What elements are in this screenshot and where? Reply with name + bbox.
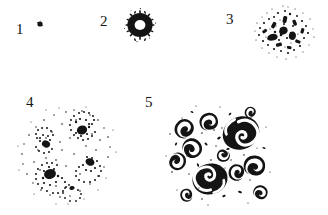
panel-4: 4	[14, 92, 132, 210]
panel-5: 5	[140, 92, 278, 212]
panel-3: 3	[218, 2, 324, 66]
panel-label-1: 1	[16, 22, 24, 37]
panel-2: 2	[92, 4, 170, 52]
panel-label-3: 3	[226, 12, 234, 27]
panel-art-spiral-field	[16, 104, 128, 208]
panel-art-comma-spiral-field	[162, 100, 276, 210]
panel-1: 1	[8, 8, 78, 48]
panel-art-fragmented-cluster	[250, 2, 320, 64]
figure-canvas: 1 2	[0, 0, 328, 215]
panel-label-5: 5	[145, 95, 153, 110]
panel-label-2: 2	[100, 14, 108, 29]
panel-art-ring	[120, 4, 160, 48]
panel-art-point	[30, 14, 50, 34]
